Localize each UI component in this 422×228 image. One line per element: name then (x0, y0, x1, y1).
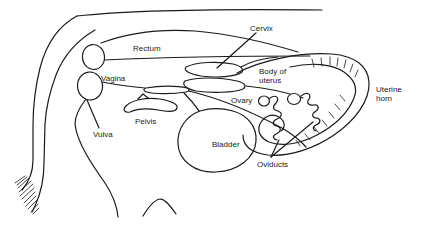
ovary-right-shape (288, 94, 301, 105)
ovary-left-shape (259, 96, 270, 106)
tail-hair-hatching (15, 176, 39, 214)
anatomy-line-diagram: Cervix Rectum Vagina Body of uterus Uter… (0, 0, 422, 228)
label-body-of-uterus-line2: uterus (259, 76, 281, 85)
label-body-of-uterus-line1: Body of (259, 67, 287, 76)
thigh-line (75, 99, 118, 217)
label-vagina: Vagina (101, 74, 126, 83)
vestibule-tip-shape (144, 86, 189, 94)
rectum-top-line (101, 30, 298, 52)
rump-tail-outer-line (22, 16, 77, 190)
diagram-canvas: Cervix Rectum Vagina Body of uterus Uter… (0, 0, 422, 228)
back-top-line (77, 10, 322, 16)
label-uterine-horn-line2: horn (376, 94, 392, 103)
cervix-shape (185, 62, 242, 77)
vaginal-fornix-shape (184, 78, 245, 92)
vulva-opening-shape (76, 71, 103, 101)
label-oviducts: Oviducts (257, 160, 288, 169)
hock-line (143, 199, 176, 216)
label-vulva: Vulva (93, 130, 113, 139)
uterine-horn-outer-line (237, 54, 369, 156)
label-rectum: Rectum (133, 44, 161, 53)
uterus-upper-curve (241, 57, 278, 67)
pelvis-shape (124, 98, 177, 112)
label-bladder: Bladder (212, 140, 240, 149)
label-pelvis: Pelvis (135, 117, 156, 126)
label-cervix: Cervix (250, 24, 273, 33)
oviduct-left-line (270, 96, 281, 140)
oviduct-right-line (301, 93, 320, 131)
label-ovary: Ovary (231, 96, 252, 105)
anus-opening-shape (81, 43, 105, 70)
vulva-pointer-line (87, 100, 99, 128)
label-uterine-horn-line1: Uterine (376, 85, 402, 94)
